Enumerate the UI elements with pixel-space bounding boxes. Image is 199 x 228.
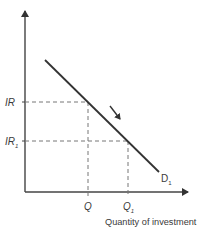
q1-label: Q1 [123,201,134,214]
q-label: Q [84,201,92,212]
d1-label: D1 [161,173,172,186]
movement-arrow-icon [110,106,120,119]
demand-curve-d1 [45,60,159,172]
ir1-label: IR1 [5,136,18,149]
x-axis-label: Quantity of investment [105,217,197,227]
investment-demand-diagram: IR IR1 Q Q1 D1 Quantity of investment [0,0,199,228]
ir-label: IR [5,97,15,108]
